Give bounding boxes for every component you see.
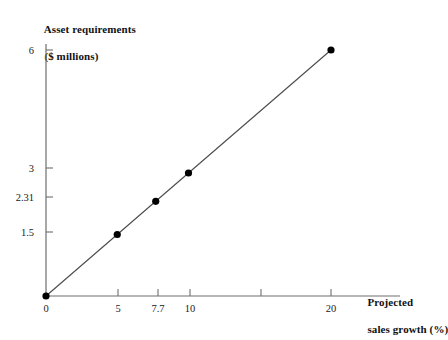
data-point: [327, 46, 334, 53]
x-axis-ticks: [118, 289, 331, 296]
axis-lines: [46, 44, 400, 296]
data-point: [42, 292, 49, 299]
data-point: [152, 198, 159, 205]
data-point: [114, 231, 121, 238]
data-series-asset-requirements: [42, 46, 334, 299]
y-axis-ticks: [46, 50, 53, 232]
data-point: [185, 169, 192, 176]
